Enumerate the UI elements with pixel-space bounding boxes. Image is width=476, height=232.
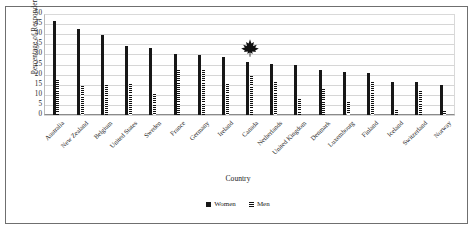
chart-legend: WomenMen [0, 200, 476, 208]
legend-label: Men [257, 200, 270, 208]
x-axis-tick-label: Sweden [115, 120, 162, 167]
x-axis-tick-label: Canada [212, 120, 259, 167]
x-axis-tick-label: United Kingdom [260, 120, 307, 167]
x-axis-tick-label: Germany [164, 120, 211, 167]
x-axis-tick-label: Belgium [67, 120, 114, 167]
x-axis-tick-label: United States [91, 120, 138, 167]
x-axis-tick-label: France [140, 120, 187, 167]
legend-item: Women [206, 200, 236, 208]
legend-item: Men [249, 200, 270, 208]
legend-label: Women [214, 200, 236, 208]
legend-swatch-icon [249, 202, 254, 207]
x-axis-tick-labels: AustraliaNew ZealandBelgiumUnited States… [0, 0, 476, 232]
x-axis-tick-label: New Zealand [43, 120, 90, 167]
x-axis-tick-label: Switzerland [381, 120, 428, 167]
x-axis-tick-label: Ireland [188, 120, 235, 167]
x-axis-tick-label: Luxembourg [309, 120, 356, 167]
x-axis-tick-label: Norway [405, 120, 452, 167]
x-axis-tick-label: Finland [333, 120, 380, 167]
x-axis-title: Country [0, 174, 476, 183]
x-axis-tick-label: Iceland [357, 120, 404, 167]
x-axis-tick-label: Denmark [285, 120, 332, 167]
legend-swatch-icon [206, 202, 211, 207]
